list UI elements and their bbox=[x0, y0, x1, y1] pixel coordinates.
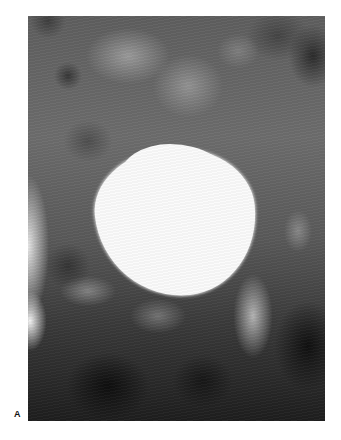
panel-label: A bbox=[14, 409, 21, 419]
radiograph-image bbox=[28, 16, 325, 421]
film-grain bbox=[28, 16, 325, 421]
figure-panel: A bbox=[0, 0, 341, 440]
